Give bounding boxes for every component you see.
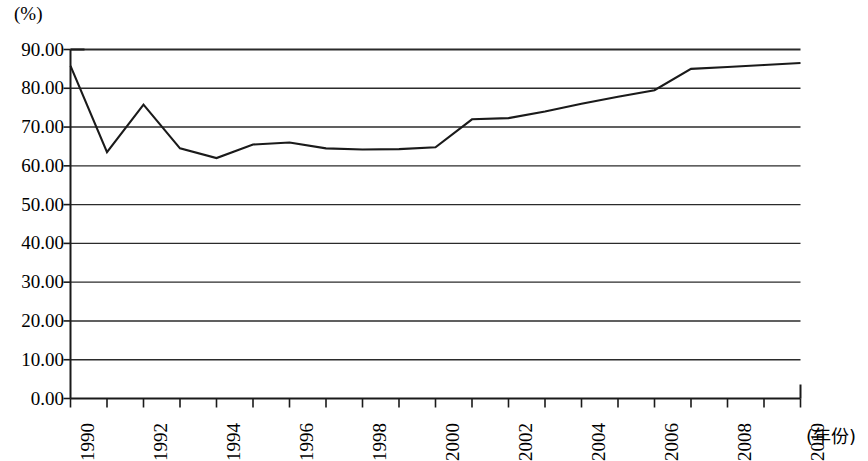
x-axis-tick-label: 2004	[589, 423, 608, 461]
x-axis-tick-label: 1998	[370, 423, 389, 461]
x-axis-tick-label: 1992	[151, 423, 170, 461]
x-axis-tick-label: 2006	[662, 423, 681, 461]
x-axis-tick-label: 1990	[78, 423, 97, 461]
x-axis-tick-label: 1996	[297, 423, 316, 461]
x-axis-title: (年份)	[806, 428, 856, 446]
x-axis-tick-label: 2002	[516, 423, 535, 461]
x-axis-tick-label: 1994	[224, 423, 243, 461]
x-axis-tick-label: 2008	[735, 423, 754, 461]
x-axis-tick-label: 2000	[443, 423, 462, 461]
